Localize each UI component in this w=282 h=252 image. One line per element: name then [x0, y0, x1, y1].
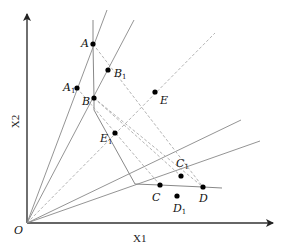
label-e: E [160, 95, 168, 106]
ray-through-b1 [27, 20, 134, 223]
y-axis-label: X2 [10, 115, 21, 128]
label-a: A [81, 38, 89, 49]
label-b1: B1 [114, 68, 127, 81]
label-c: C [152, 192, 160, 203]
point-c1 [178, 173, 183, 178]
ray-through-e-dashed [27, 33, 215, 223]
point-d1 [174, 193, 179, 198]
x-axis-label: X1 [133, 233, 146, 244]
point-b [91, 95, 96, 100]
point-a [90, 41, 95, 46]
point-c [157, 182, 162, 187]
ray-through-c1 [27, 120, 241, 223]
efficiency-frontier [93, 20, 222, 188]
ray-through-d1 [27, 141, 260, 223]
point-e [152, 89, 157, 94]
ray-through-a1 [27, 10, 107, 223]
label-d1: D1 [173, 203, 186, 216]
label-e1: E1 [100, 133, 113, 146]
label-b: B [82, 96, 90, 107]
point-e1 [112, 130, 117, 135]
origin-label: O [14, 225, 23, 236]
label-d: D [199, 193, 208, 204]
diagram-canvas [0, 0, 282, 252]
label-a1: A1 [63, 82, 75, 95]
point-d [200, 184, 205, 189]
label-c1: C1 [176, 158, 189, 171]
point-b1 [105, 67, 110, 72]
